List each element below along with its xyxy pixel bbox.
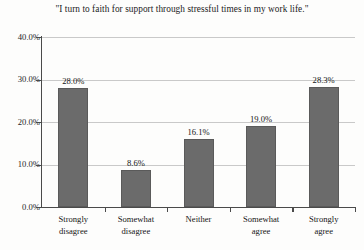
x-tick-mark — [105, 207, 106, 212]
bar-value-label: 28.0% — [46, 76, 100, 86]
bar — [58, 88, 88, 207]
bar-value-label: 19.0% — [234, 114, 288, 124]
x-tick-mark — [167, 207, 168, 212]
bar — [246, 126, 276, 207]
x-category-label-line: Strongly — [287, 214, 361, 226]
bar-chart: "I turn to faith for support through str… — [0, 0, 364, 250]
y-tick-label: 10.0% — [2, 160, 40, 169]
chart-title: "I turn to faith for support through str… — [0, 3, 364, 15]
x-category-label-line: agree — [287, 226, 361, 238]
bar — [121, 170, 151, 207]
bar-value-label: 28.3% — [297, 75, 351, 85]
plot-area — [42, 37, 355, 207]
x-category-label: Stronglyagree — [287, 214, 361, 237]
y-tick-label: 0.0% — [2, 203, 40, 212]
bar-value-label: 8.6% — [109, 158, 163, 168]
x-tick-mark — [355, 207, 356, 212]
bar-value-label: 16.1% — [172, 127, 226, 137]
y-tick-label: 30.0% — [2, 75, 40, 84]
gridline — [42, 37, 355, 38]
y-tick-label: 20.0% — [2, 118, 40, 127]
y-axis: 0.0%10.0%20.0%30.0%40.0% — [0, 0, 40, 250]
x-tick-mark — [292, 207, 293, 212]
x-tick-mark — [230, 207, 231, 212]
y-tick-label: 40.0% — [2, 33, 40, 42]
bar — [184, 139, 214, 207]
x-category-label-line: disagree — [99, 226, 173, 238]
bar — [309, 87, 339, 207]
